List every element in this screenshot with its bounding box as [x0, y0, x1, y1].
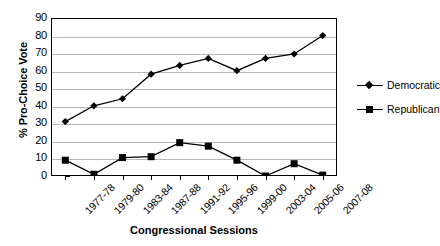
data-point-democratic — [62, 118, 69, 125]
legend-item-democratic[interactable]: Democratic — [357, 80, 440, 91]
x-axis-tick-mark — [294, 176, 295, 180]
y-axis-tick-label: 0 — [23, 170, 47, 181]
series-line-republican — [65, 143, 322, 176]
x-axis-tick-mark — [151, 176, 152, 180]
legend-item-republican[interactable]: Republican — [357, 104, 440, 115]
x-axis-tick-mark — [237, 176, 238, 180]
x-axis-title: Congressional Sessions — [51, 224, 337, 236]
y-axis-tick-label: 80 — [23, 30, 47, 41]
x-axis-tick-label: 2003-04 — [283, 182, 317, 216]
x-axis-tick-mark — [123, 176, 124, 180]
data-point-democratic — [233, 67, 240, 74]
x-axis-tick-label: 2007-08 — [341, 182, 375, 216]
y-axis-tick-label: 30 — [23, 117, 47, 128]
data-point-democratic — [176, 62, 183, 69]
x-axis-tick-mark — [266, 176, 267, 180]
x-axis-tick-label: 1991-92 — [198, 182, 232, 216]
legend-item-label: Democratic — [387, 80, 440, 91]
x-axis-tick-label: 1995-96 — [226, 182, 260, 216]
data-point-republican — [233, 157, 240, 164]
x-axis-tick-mark — [323, 176, 324, 180]
data-point-republican — [148, 153, 155, 160]
y-axis-tick-label: 90 — [23, 12, 47, 23]
legend-item-label: Republican — [387, 104, 440, 115]
x-axis-tick-mark — [94, 176, 95, 180]
data-point-republican — [62, 157, 69, 164]
y-axis-tick-label: 50 — [23, 82, 47, 93]
y-axis-tick-label: 70 — [23, 47, 47, 58]
data-point-republican — [176, 139, 183, 146]
chart-legend: DemocraticRepublican — [357, 80, 440, 128]
data-series-layer — [51, 18, 337, 176]
y-axis-ticks: 9080706050403020100 — [19, 0, 47, 246]
diamond-marker-icon — [357, 80, 383, 91]
data-point-democratic — [291, 50, 298, 57]
x-axis-tick-label: 1999-00 — [255, 182, 289, 216]
data-point-democratic — [205, 55, 212, 62]
data-point-democratic — [319, 32, 326, 39]
data-point-republican — [119, 154, 126, 161]
x-axis-tick-label: 1979-80 — [112, 182, 146, 216]
x-axis-tick-mark — [65, 176, 66, 180]
x-axis-tick-mark — [180, 176, 181, 180]
x-axis-tick-label: 1987-88 — [169, 182, 203, 216]
data-point-democratic — [90, 102, 97, 109]
x-axis-tick-mark — [208, 176, 209, 180]
square-marker-icon — [357, 104, 383, 115]
x-axis-tick-label: 1977-78 — [83, 182, 117, 216]
y-axis-tick-label: 10 — [23, 152, 47, 163]
x-axis-tick-label: 1983-84 — [140, 182, 174, 216]
y-axis-tick-mark — [66, 176, 70, 177]
y-axis-tick-label: 60 — [23, 65, 47, 76]
y-axis-tick-label: 20 — [23, 135, 47, 146]
data-point-democratic — [262, 55, 269, 62]
chart-container: % Pro-Choice Vote 9080706050403020100 19… — [0, 0, 440, 246]
y-axis-tick-label: 40 — [23, 100, 47, 111]
data-point-republican — [205, 143, 212, 150]
series-line-democratic — [65, 36, 322, 122]
x-axis-tick-label: 2005-06 — [312, 182, 346, 216]
data-point-republican — [291, 160, 298, 167]
